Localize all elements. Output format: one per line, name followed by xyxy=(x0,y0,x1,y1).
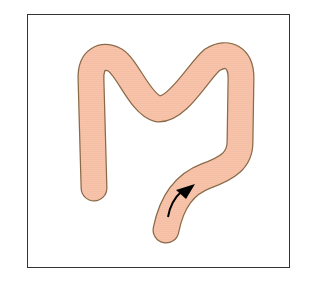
colon-diagram xyxy=(0,0,310,289)
colon-tube xyxy=(91,56,241,230)
